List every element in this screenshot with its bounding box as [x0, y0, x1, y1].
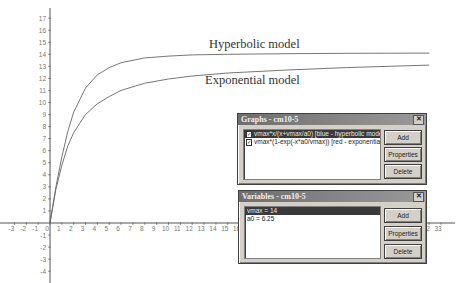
y-tick-label: 3 [42, 183, 46, 190]
y-tick-label: 13 [39, 63, 47, 70]
graphs-window: Graphs - cm10-5 ✕ ✓ vmax*x/(x+vmax/a0) [… [237, 113, 427, 185]
x-tick-label: 1 [57, 225, 61, 232]
x-tick-label: 4 [93, 225, 97, 232]
x-tick-label: 10 [162, 225, 170, 232]
x-tick-label: 33 [434, 225, 442, 232]
x-tick-label: 5 [104, 225, 108, 232]
variable-item-vmax[interactable]: vmax = 14 [245, 207, 380, 215]
graph-item-label: vmax*x/(x+vmax/a0) [blue - hyperbolic mo… [254, 130, 381, 138]
x-tick-label: -1 [32, 225, 38, 232]
checkbox-icon[interactable]: ✓ [246, 139, 252, 146]
y-tick-label: -2 [40, 244, 46, 251]
y-tick-label: 11 [39, 87, 46, 94]
checkbox-icon[interactable]: ✓ [246, 131, 252, 138]
x-tick-label: 9 [152, 225, 156, 232]
y-tick-label: 6 [42, 147, 46, 154]
y-tick-label: 1 [42, 207, 46, 214]
graph-properties-button[interactable]: Properties [384, 147, 422, 162]
x-tick-label: 15 [221, 225, 229, 232]
x-tick-label: 7 [128, 225, 132, 232]
y-tick-label: 5 [42, 159, 46, 166]
variable-properties-button[interactable]: Properties [384, 226, 422, 241]
variables-window: Variables - cm10-5 ✕ vmax = 14 a0 = 6.25… [238, 190, 427, 264]
add-variable-button[interactable]: Add [384, 208, 422, 223]
x-tick-label: 12 [186, 225, 194, 232]
graph-item-label: vmax*(1-exp(-x*a0/vmax)) [red - exponent… [254, 138, 381, 146]
y-tick-label: 8 [42, 123, 46, 130]
x-tick-label: 8 [140, 225, 144, 232]
exponential-label: Exponential model [205, 73, 300, 88]
y-tick-label: 2 [42, 195, 46, 202]
y-tick-label: -1 [40, 232, 46, 239]
y-tick-label: 4 [42, 171, 46, 178]
y-tick-label: 9 [42, 111, 46, 118]
hyperbolic-label: Hyperbolic model [209, 37, 300, 52]
close-icon[interactable]: ✕ [413, 115, 424, 125]
graph-item-exponential[interactable]: ✓ vmax*(1-exp(-x*a0/vmax)) [red - expone… [244, 138, 380, 146]
variables-window-titlebar[interactable]: Variables - cm10-5 ✕ [239, 191, 426, 202]
graphs-window-title: Graphs - cm10-5 [241, 115, 298, 124]
y-tick-label: 7 [42, 135, 46, 142]
y-tick-label: 12 [39, 75, 47, 82]
graphs-window-titlebar[interactable]: Graphs - cm10-5 ✕ [238, 114, 426, 125]
graph-item-hyperbolic[interactable]: ✓ vmax*x/(x+vmax/a0) [blue - hyperbolic … [244, 130, 380, 138]
x-tick-label: 14 [209, 225, 217, 232]
x-tick-label: 2 [69, 225, 73, 232]
variables-list[interactable]: vmax = 14 a0 = 6.25 [244, 206, 381, 259]
y-tick-label: 14 [39, 51, 47, 58]
x-tick-label: -2 [20, 225, 26, 232]
close-icon[interactable]: ✕ [413, 192, 424, 202]
x-tick-label: 6 [116, 225, 120, 232]
add-graph-button[interactable]: Add [384, 130, 422, 145]
y-tick-label: -4 [40, 268, 46, 275]
y-tick-label: -3 [40, 256, 46, 263]
delete-graph-button[interactable]: Delete [384, 164, 422, 179]
x-tick-label: 11 [174, 225, 181, 232]
y-tick-label: 17 [39, 15, 47, 22]
x-tick-label: -3 [9, 225, 15, 232]
y-tick-label: 16 [39, 27, 47, 34]
variables-window-title: Variables - cm10-5 [242, 192, 306, 201]
y-tick-label: 15 [39, 39, 47, 46]
variable-item-a0[interactable]: a0 = 6.25 [245, 215, 380, 223]
x-tick-label: 13 [197, 225, 205, 232]
x-tick-label: 3 [81, 225, 85, 232]
y-tick-label: 10 [39, 99, 47, 106]
graphs-list[interactable]: ✓ vmax*x/(x+vmax/a0) [blue - hyperbolic … [243, 129, 381, 180]
delete-variable-button[interactable]: Delete [384, 244, 422, 259]
